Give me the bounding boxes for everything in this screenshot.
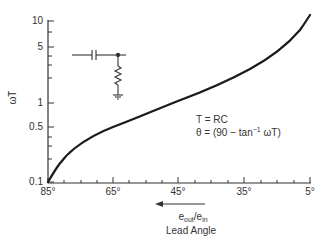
resistor-icon xyxy=(115,66,121,85)
y-tick-label: 10 xyxy=(13,16,43,26)
formula-line-2: θ = (90 − tan−1 ωT) xyxy=(196,126,281,140)
x-tick-label: 85° xyxy=(40,187,55,197)
x-tick-label: 65° xyxy=(105,187,120,197)
x-tick-label: 5° xyxy=(305,187,315,197)
formula-line-1: T = RC xyxy=(196,113,281,126)
y-ticks xyxy=(48,21,54,182)
ratio-label: eout/ein xyxy=(170,210,216,224)
y-tick-label: 0.5 xyxy=(13,122,43,132)
lead-angle-label: Lead Angle xyxy=(166,224,216,237)
x-tick-label: 35° xyxy=(236,187,251,197)
x-tick-label: 45° xyxy=(170,187,185,197)
chart-canvas xyxy=(0,0,334,241)
x-axis-label: eout/ein Lead Angle xyxy=(166,210,216,237)
formula-annotation: T = RC θ = (90 − tan−1 ωT) xyxy=(196,113,281,140)
y-tick-label: 0.1 xyxy=(13,177,43,187)
x-ticks xyxy=(48,177,310,183)
y-tick-label: 5 xyxy=(13,42,43,52)
curve-line xyxy=(48,15,310,182)
direction-arrow-icon xyxy=(155,201,205,207)
y-tick-label: 1 xyxy=(13,98,43,108)
rc-circuit-diagram xyxy=(72,50,126,99)
